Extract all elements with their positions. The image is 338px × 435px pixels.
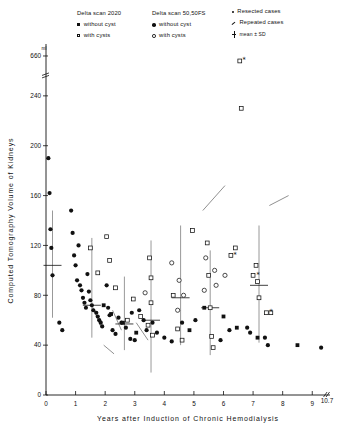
data-point-filled-square [256,336,260,340]
data-point-filled-circle [108,313,112,317]
data-point-open-circle [143,291,147,295]
data-point-open-square [131,297,135,301]
resected-case-marker [264,311,268,315]
data-point-open-circle [181,293,185,297]
y-tick-label: 80 [34,292,42,299]
resected-case-asterisk: ∗ [256,270,260,276]
data-point-filled-circle [100,324,104,328]
data-point-open-circle [223,273,227,277]
repeated-case-line [113,310,122,330]
data-point-filled-circle [84,306,88,310]
x-tick-label: 6 [222,400,226,407]
data-point-filled-circle [245,326,249,330]
y-tick-label: 120 [30,242,41,249]
data-point-filled-square [222,315,226,319]
data-point-open-square [149,301,153,305]
data-point-open-square [105,235,109,239]
data-point-filled-circle [90,303,94,307]
data-point-filled-circle [79,288,83,292]
data-point-filled-circle [88,298,92,302]
data-point-filled-circle [99,321,103,325]
data-point-filled-circle [170,339,174,343]
data-point-filled-circle [180,321,184,325]
data-point-filled-circle [193,318,197,322]
x-axis-title: Years after Induction of Chronic Hemodia… [97,415,279,423]
data-point-open-square [96,271,100,275]
data-point-open-circle [214,283,218,287]
data-point-filled-circle [263,336,267,340]
data-point-filled-circle [142,318,146,322]
data-point-filled-circle [96,314,100,318]
data-point-open-square [239,106,243,110]
y-tick-label: 0 [37,391,41,398]
data-point-filled-circle [105,283,109,287]
data-point-open-square [88,246,92,250]
data-point-filled-circle [82,301,86,305]
data-point-filled-square [296,343,300,347]
data-point-filled-circle [72,253,76,257]
y-tick-label: 240 [30,92,41,99]
data-point-filled-circle [266,343,270,347]
data-point-filled-circle [124,326,128,330]
data-point-open-square [148,256,152,260]
data-point-open-square [151,333,155,337]
data-point-open-square [180,338,184,342]
resected-case-marker [238,59,242,63]
repeated-case-line [269,196,288,206]
data-point-open-square [125,318,129,322]
data-point-filled-circle [47,191,51,195]
y-tick-label: 40 [34,341,42,348]
data-point-filled-circle [49,246,53,250]
data-point-open-circle [204,256,208,260]
scatter-plot: 04080120160200240660ml012345678910.7Year… [0,0,338,435]
data-point-open-square [139,315,143,319]
resected-case-asterisk: ∗ [233,250,237,256]
data-point-filled-circle [218,338,222,342]
data-point-filled-circle [75,278,79,282]
data-point-open-square [207,273,211,277]
y-tick-label: 160 [30,192,41,199]
chart-page: Delta scan 2020 without cyst with cysts … [0,0,338,435]
resected-case-marker [229,254,233,258]
data-point-open-square [191,229,195,233]
repeated-case-line [203,186,225,211]
x-tick-label: 8 [281,400,285,407]
data-point-open-square [208,306,212,310]
y-axis-break-mark [42,73,49,76]
data-point-open-square [254,263,258,267]
resected-case-marker [251,273,255,277]
data-point-open-circle [170,261,174,265]
data-point-filled-circle [85,272,89,276]
data-point-filled-circle [46,156,50,160]
data-point-open-square [210,335,214,339]
repeated-case-line [104,345,114,354]
data-point-open-square [114,286,118,290]
data-point-open-circle [202,288,206,292]
data-point-filled-circle [150,321,154,325]
data-point-open-square [256,280,260,284]
data-point-filled-circle [69,208,73,212]
x-tick-label: 5 [192,400,196,407]
data-point-filled-circle [76,243,80,247]
x-tick-label: 7 [251,400,255,407]
data-point-filled-circle [48,227,52,231]
x-tick-label: 4 [163,400,167,407]
x-tick-label: 0 [44,400,48,407]
y-break-label: 660 [30,52,41,59]
data-point-filled-circle [94,311,98,315]
data-point-filled-circle [155,331,159,335]
data-point-filled-circle [128,337,132,341]
data-point-filled-circle [78,283,82,287]
x-tick-label: 3 [133,400,137,407]
data-point-filled-circle [248,331,252,335]
data-point-open-square [171,293,175,297]
data-point-open-square [205,241,209,245]
data-point-filled-square [134,331,138,335]
data-point-filled-circle [119,321,123,325]
y-tick-label: 200 [30,142,41,149]
data-point-filled-circle [110,328,114,332]
data-point-open-square [149,276,153,280]
data-point-filled-circle [57,321,61,325]
x-tick-label: 9 [310,400,314,407]
data-point-open-square [108,258,112,262]
